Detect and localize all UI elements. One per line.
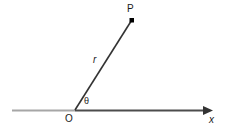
x-axis-label: x [209, 115, 214, 125]
polar-coordinate-diagram: P O r θ x [0, 0, 228, 132]
origin-label: O [65, 114, 73, 124]
diagram-canvas [0, 0, 228, 132]
point-p-label: P [127, 4, 134, 14]
angle-theta-label: θ [84, 97, 89, 106]
point-p-marker [130, 18, 135, 23]
radius-label: r [93, 55, 96, 65]
